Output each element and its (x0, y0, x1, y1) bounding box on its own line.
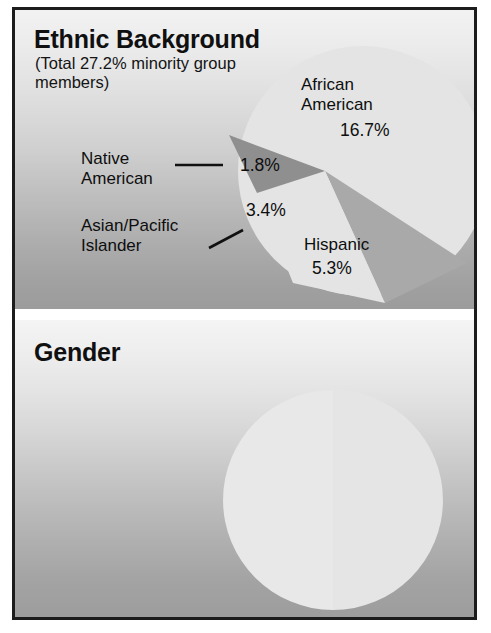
label-african-american: African American (301, 75, 373, 115)
panel-subtitle-ethnic: (Total 27.2% minority group members) (35, 54, 250, 92)
value-african-american: 16.7% (340, 120, 390, 140)
panel-ethnic-background: Ethnic Background (Total 27.2% minority … (15, 10, 474, 309)
figure-frame: Ethnic Background (Total 27.2% minority … (12, 7, 477, 620)
panel-title-gender: Gender (34, 338, 120, 367)
pie-slice-men (333, 390, 443, 610)
leader-line-asian-pacific-islander (209, 230, 243, 248)
pie-slice-women (223, 390, 333, 610)
value-hispanic: 5.3% (312, 258, 352, 278)
label-hispanic: Hispanic (304, 235, 369, 255)
label-asian-pacific-islander: Asian/Pacific Islander (81, 216, 178, 256)
panel-gender: Gender Women 43% Men 57% (15, 320, 474, 617)
figure-root: Ethnic Background (Total 27.2% minority … (0, 0, 491, 633)
panel-divider (15, 309, 474, 320)
label-native-american: Native American (81, 149, 153, 189)
value-asian-pacific-islander: 3.4% (246, 200, 286, 220)
value-native-american: 1.8% (240, 155, 280, 175)
panel-title-ethnic: Ethnic Background (34, 25, 260, 54)
